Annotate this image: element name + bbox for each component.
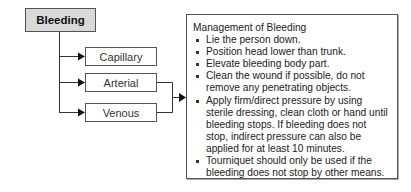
arrow-venous-icon (78, 109, 85, 117)
capillary-node: Capillary (85, 47, 157, 66)
venous-label: Venous (103, 107, 140, 119)
arrow-arterial-icon (78, 79, 85, 87)
management-step: Position head lower than trunk. (193, 46, 391, 58)
arrow-capillary-icon (78, 53, 85, 61)
arterial-label: Arterial (104, 77, 139, 89)
management-step: Lie the person down. (193, 34, 391, 46)
management-box: Management of Bleeding Lie the person do… (186, 14, 398, 179)
management-step: Tourniquet should only be used if the bl… (193, 155, 391, 179)
bleeding-root-node: Bleeding (25, 8, 96, 32)
management-step: Clean the wound if possible, do not remo… (193, 70, 391, 94)
management-step: Apply firm/direct pressure by using ster… (193, 95, 391, 155)
management-step: Elevate bleeding body part. (193, 58, 391, 70)
capillary-label: Capillary (100, 51, 143, 63)
venous-node: Venous (85, 103, 157, 122)
root-label: Bleeding (36, 14, 85, 26)
management-steps-list: Lie the person down. Position head lower… (193, 34, 391, 179)
arrow-management-icon (179, 93, 186, 102)
management-title: Management of Bleeding (193, 22, 391, 34)
arterial-node: Arterial (85, 73, 157, 92)
